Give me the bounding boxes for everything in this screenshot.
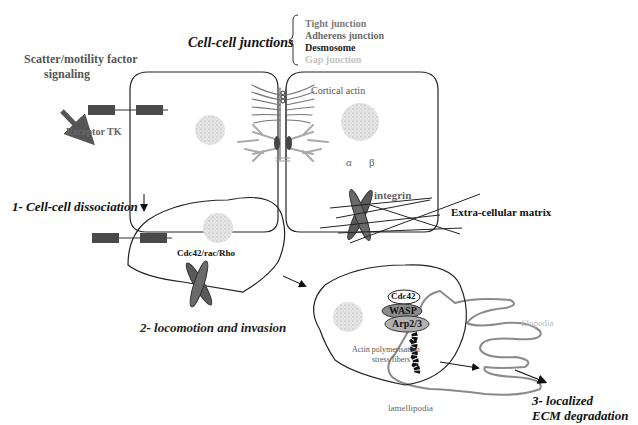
cell-cell-junctions-title: Cell-cell junctions bbox=[188, 35, 293, 51]
ecm-label: Extra-cellular matrix bbox=[451, 206, 551, 218]
integrin-middle bbox=[183, 260, 216, 309]
gtpases-label: Cdc42/rac/Rho bbox=[177, 248, 235, 258]
receptor-box-3 bbox=[92, 233, 119, 243]
step2-label: 2- locomotion and invasion bbox=[140, 320, 286, 336]
receptor-box-4 bbox=[140, 233, 167, 243]
signaling-label-line1: Scatter/motility factor bbox=[24, 52, 138, 67]
alpha-label: α bbox=[346, 156, 352, 168]
actin-poly-line1: Actin polymerisation bbox=[352, 345, 420, 354]
receptor-label: Receptor TK bbox=[66, 126, 121, 137]
lamellipodia-label: lamellipodia bbox=[388, 403, 433, 413]
cortical-actin-label: Cortical actin bbox=[311, 85, 365, 96]
arp-label: Arp2/3 bbox=[392, 318, 422, 329]
step3-label-line1: 3- localized bbox=[532, 393, 593, 409]
step3-label-line2: ECM degradation bbox=[532, 408, 628, 424]
cdc42-label: Cdc42 bbox=[391, 291, 416, 301]
nucleus-invading bbox=[333, 302, 363, 332]
junction-actin bbox=[238, 85, 328, 161]
step1-label: 1- Cell-cell dissociation bbox=[12, 199, 138, 215]
extracellular-matrix bbox=[320, 194, 480, 243]
actin-poly-line2: stress fibers bbox=[372, 355, 410, 364]
beta-label: β bbox=[369, 156, 375, 168]
step2-arrow bbox=[283, 276, 305, 286]
wasp-label: WASP bbox=[389, 305, 417, 316]
step3-arrow bbox=[515, 370, 545, 382]
junction-desmosome: Desmosome bbox=[305, 42, 356, 54]
nucleus-migrating bbox=[203, 213, 233, 243]
signaling-label-line2: signaling bbox=[44, 67, 90, 82]
receptor-box-2 bbox=[136, 105, 163, 115]
filopodia-label: filopodia bbox=[521, 318, 554, 328]
receptor-box-1 bbox=[88, 105, 115, 115]
integrin-label: integrin bbox=[374, 189, 411, 201]
integrin-top bbox=[344, 188, 376, 242]
nucleus-left bbox=[195, 115, 225, 145]
junction-tight: Tight junction bbox=[305, 18, 366, 30]
nucleus-right bbox=[341, 103, 379, 141]
junction-gap: Gap junction bbox=[305, 54, 361, 66]
junction-adherens: Adherens junction bbox=[305, 30, 384, 42]
